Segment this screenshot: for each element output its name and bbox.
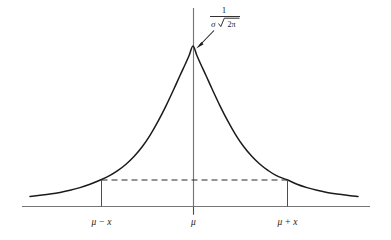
axis-label-mu-plus-x: μ + x	[276, 217, 298, 227]
formula-sigma: σ	[211, 19, 216, 29]
axis-label-mu: μ	[190, 217, 196, 227]
normal-distribution-figure: 1 σ 2π μ − x μ μ + x	[0, 0, 391, 240]
formula-numerator: 1	[222, 5, 227, 15]
distribution-plot-svg: 1 σ 2π μ − x μ μ + x	[0, 0, 391, 240]
axis-label-mu-minus-x: μ − x	[90, 217, 112, 227]
formula-radicand: 2π	[227, 20, 235, 29]
